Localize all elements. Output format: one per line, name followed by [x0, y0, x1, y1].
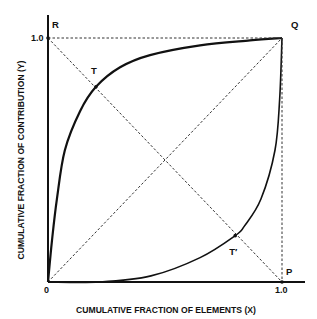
x-tick-label-1: 1.0 — [275, 285, 288, 295]
point-T-marker — [94, 85, 98, 89]
point-label-T-prime: T′ — [229, 246, 238, 257]
point-P-marker — [280, 280, 284, 284]
y-tick-label-1: 1.0 — [31, 33, 44, 43]
plot-lines — [48, 38, 282, 282]
point-labels: RQTT′P — [52, 19, 298, 277]
x-tick-label-0: 0 — [44, 285, 49, 295]
y-axis-title: CUMULATIVE FRACTION OF CONTRIBUTION (Y) — [16, 60, 26, 259]
x-axis-title: CUMULATIVE FRACTION OF ELEMENTS (X) — [76, 305, 256, 315]
point-T-prime-marker — [233, 234, 237, 238]
point-label-R: R — [52, 19, 59, 30]
point-label-T: T — [91, 65, 97, 76]
lorenz-chart: RQTT′P 0 1.0 1.0 CUMULATIVE FRACTION OF … — [0, 0, 317, 319]
point-label-P: P — [286, 266, 293, 277]
point-R-marker — [46, 36, 50, 40]
point-label-Q: Q — [291, 19, 298, 30]
